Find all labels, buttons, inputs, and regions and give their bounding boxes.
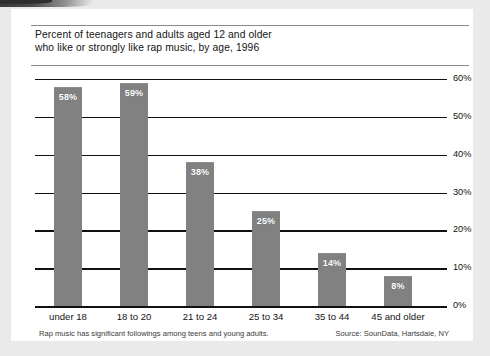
y-axis-tick-label: 40%: [453, 149, 471, 159]
bar: 25%: [252, 211, 280, 307]
y-axis-tick-label: 60%: [453, 73, 471, 83]
gridline-60: [35, 79, 447, 80]
bar-value-label: 8%: [384, 281, 412, 291]
chart-title: Percent of teenagers and adults aged 12 …: [35, 29, 455, 54]
y-axis-tick-label: 30%: [453, 187, 471, 197]
gridline-20: [35, 230, 447, 231]
chart-page: Percent of teenagers and adults aged 12 …: [0, 0, 490, 356]
chart-card: Percent of teenagers and adults aged 12 …: [11, 9, 473, 341]
title-rule-bottom: [31, 65, 469, 66]
bar: 58%: [54, 87, 82, 307]
bar-value-label: 59%: [120, 88, 148, 98]
footer-source: Source: SounData, Hartsdale, NY: [335, 329, 449, 338]
gridline-30: [35, 193, 447, 194]
y-axis-tick-label: 50%: [453, 111, 471, 121]
gridline-10: [35, 268, 447, 269]
bar-value-label: 58%: [54, 92, 82, 102]
y-axis-tick-label: 10%: [453, 262, 471, 272]
chart-title-line1: Percent of teenagers and adults aged 12 …: [35, 29, 272, 40]
x-axis-category-label: 45 and older: [357, 311, 439, 322]
gridline-40: [35, 155, 447, 156]
footer-note: Rap music has significant followings amo…: [39, 329, 269, 338]
x-axis-baseline: [35, 306, 447, 308]
plot-area: 0%10%20%30%40%50%60%58%59%38%25%14%8%: [35, 79, 431, 307]
y-axis-tick-label: 20%: [453, 224, 471, 234]
bar: 59%: [120, 83, 148, 307]
y-axis-tick-label: 0%: [453, 300, 466, 310]
title-rule-top: [31, 25, 469, 26]
chart-title-line2: who like or strongly like rap music, by …: [35, 42, 455, 55]
bar-value-label: 14%: [318, 258, 346, 268]
bar: 8%: [384, 276, 412, 307]
bar-value-label: 38%: [186, 167, 214, 177]
x-axis-labels: under 1818 to 2021 to 2425 to 3435 to 44…: [35, 311, 431, 325]
gridline-50: [35, 117, 447, 118]
bar: 14%: [318, 253, 346, 307]
bar: 38%: [186, 162, 214, 307]
bar-value-label: 25%: [252, 216, 280, 226]
